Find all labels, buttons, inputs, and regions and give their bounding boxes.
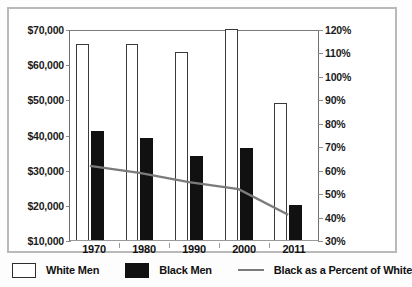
right-axis-tick bbox=[318, 30, 323, 31]
right-axis-tick bbox=[318, 100, 323, 101]
plot-area bbox=[69, 30, 319, 241]
category-tick bbox=[219, 243, 220, 248]
left-axis-tick-label: $30,000 bbox=[27, 165, 64, 177]
right-axis-tick bbox=[318, 218, 323, 219]
right-axis-tick-label: 90% bbox=[325, 94, 345, 106]
legend-label: Black Men bbox=[159, 264, 212, 276]
line-marker-icon bbox=[238, 269, 264, 271]
right-axis-tick bbox=[318, 194, 323, 195]
percent-line bbox=[90, 166, 288, 215]
legend-label: White Men bbox=[46, 264, 99, 276]
right-axis-tick-label: 40% bbox=[325, 212, 345, 224]
legend-item: Black Men bbox=[125, 263, 212, 278]
left-axis-tick-label: $60,000 bbox=[27, 59, 64, 71]
right-percent-axis: 30%40%50%60%70%80%90%100%110%120% bbox=[325, 30, 399, 241]
right-axis-tick-label: 50% bbox=[325, 188, 345, 200]
chart-frame: $10,000$20,000$30,000$40,000$50,000$60,0… bbox=[7, 7, 397, 253]
left-axis-tick-label: $40,000 bbox=[27, 130, 64, 142]
right-axis-tick-label: 80% bbox=[325, 118, 345, 130]
right-axis-tick bbox=[318, 171, 323, 172]
legend-item: Black as a Percent of White bbox=[238, 264, 412, 276]
right-axis-tick-label: 120% bbox=[325, 24, 351, 36]
left-axis-tick-label: $10,000 bbox=[27, 235, 64, 247]
right-axis-tick-label: 100% bbox=[325, 71, 351, 83]
chart-legend: White MenBlack MenBlack as a Percent of … bbox=[12, 258, 394, 282]
left-axis-tick-label: $70,000 bbox=[27, 24, 64, 36]
left-axis-tick-label: $20,000 bbox=[27, 200, 64, 212]
right-axis-tick-label: 60% bbox=[325, 165, 345, 177]
right-axis-tick-label: 110% bbox=[325, 47, 350, 59]
right-axis-tick bbox=[318, 53, 323, 54]
right-axis-tick bbox=[318, 77, 323, 78]
category-tick bbox=[269, 243, 270, 248]
left-axis-tick bbox=[66, 241, 71, 242]
left-value-axis: $10,000$20,000$30,000$40,000$50,000$60,0… bbox=[9, 30, 64, 241]
right-axis-tick bbox=[318, 241, 323, 242]
legend-item: White Men bbox=[12, 263, 99, 278]
category-tick bbox=[119, 243, 120, 248]
right-axis-tick bbox=[318, 124, 323, 125]
left-axis-tick-label: $50,000 bbox=[27, 94, 64, 106]
right-axis-tick bbox=[318, 147, 323, 148]
legend-label: Black as a Percent of White bbox=[274, 264, 412, 276]
percent-line-series bbox=[70, 31, 318, 240]
white-square-icon bbox=[12, 263, 36, 278]
right-axis-tick-label: 30% bbox=[325, 235, 345, 247]
right-axis-tick-label: 70% bbox=[325, 141, 345, 153]
black-square-icon bbox=[125, 263, 149, 278]
category-tick bbox=[169, 243, 170, 248]
